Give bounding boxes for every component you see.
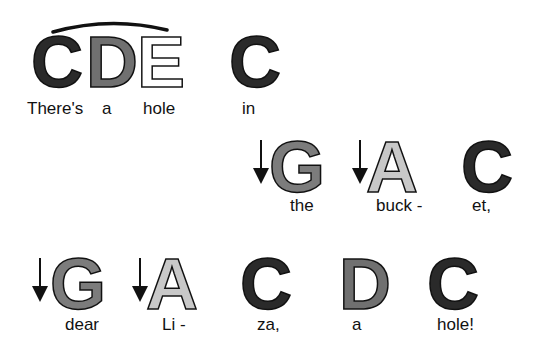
- down-arrow-icon: [253, 140, 269, 184]
- lyric: za,: [257, 316, 280, 333]
- note-c: C: [31, 26, 83, 98]
- note-d: D: [86, 26, 138, 98]
- lyric: et,: [472, 197, 491, 214]
- lyric: dear: [65, 316, 99, 333]
- lyric: the: [290, 197, 314, 214]
- note-c: C: [229, 26, 281, 98]
- note-c: C: [427, 248, 479, 320]
- note-c: C: [461, 131, 513, 203]
- lyric: hole: [143, 100, 175, 117]
- lyric: buck -: [376, 197, 422, 214]
- lyric: There's: [27, 100, 83, 117]
- note-g: G: [50, 248, 106, 320]
- note-c: C: [240, 248, 292, 320]
- note-d: D: [339, 248, 391, 320]
- note-a: A: [366, 131, 418, 203]
- lyric: a: [352, 316, 361, 333]
- lyric: Li -: [162, 316, 186, 333]
- lyric: hole!: [437, 316, 474, 333]
- lyric: a: [102, 100, 111, 117]
- note-e: E: [137, 26, 185, 98]
- note-a: A: [146, 248, 198, 320]
- down-arrow-icon: [32, 258, 48, 302]
- note-g: G: [269, 131, 325, 203]
- lyric: in: [242, 100, 255, 117]
